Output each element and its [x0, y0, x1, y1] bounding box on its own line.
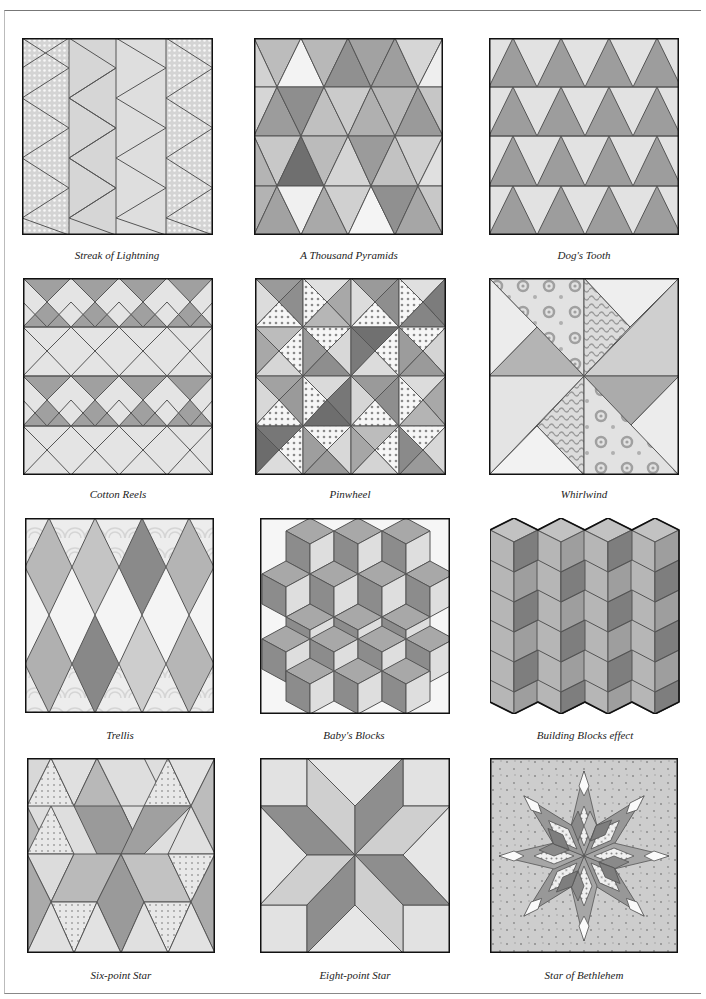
- streak-of-lightning-panel: [22, 38, 213, 235]
- caption-star-of-bethlehem: Star of Bethlehem: [464, 969, 704, 981]
- eight-point-star-panel: [260, 758, 450, 953]
- building-blocks-effect-panel: [490, 518, 680, 714]
- caption-pinwheel: Pinwheel: [230, 488, 470, 500]
- caption-babys-blocks: Baby's Blocks: [234, 729, 474, 741]
- a-thousand-pyramids-panel: [254, 38, 443, 235]
- dogs-tooth-panel: [489, 38, 679, 235]
- caption-building-blocks-effect: Building Blocks effect: [465, 729, 705, 741]
- babys-blocks-panel: [260, 518, 450, 714]
- caption-whirlwind: Whirlwind: [464, 488, 704, 500]
- caption-cotton-reels: Cotton Reels: [0, 488, 238, 500]
- caption-eight-point-star: Eight-point Star: [235, 969, 475, 981]
- whirlwind-panel: [489, 278, 679, 475]
- cotton-reels-panel: [23, 278, 213, 475]
- caption-trellis: Trellis: [0, 729, 240, 741]
- caption-a-thousand-pyramids: A Thousand Pyramids: [229, 249, 469, 261]
- star-of-bethlehem-panel: [490, 758, 678, 953]
- trellis-panel: [25, 518, 214, 713]
- caption-dogs-tooth: Dog's Tooth: [464, 249, 704, 261]
- caption-streak-of-lightning: Streak of Lightning: [0, 249, 237, 261]
- six-point-star-panel: [27, 758, 215, 953]
- pinwheel-panel: [255, 278, 446, 475]
- caption-six-point-star: Six-point Star: [1, 969, 241, 981]
